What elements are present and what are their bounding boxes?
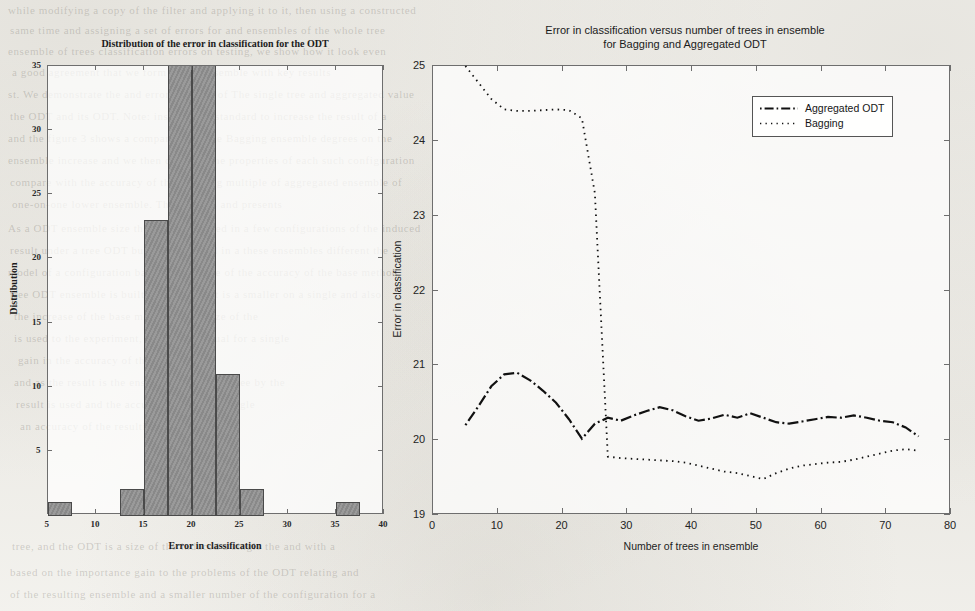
y-tick-label: 5	[36, 445, 41, 455]
x-tick-mark-top	[756, 65, 757, 71]
y-tick-label: 20	[32, 252, 41, 262]
y-tick-label: 35	[32, 60, 41, 70]
x-tick-mark	[383, 509, 384, 514]
x-tick-mark-top	[821, 65, 822, 71]
x-tick-mark-top	[562, 65, 563, 71]
x-tick-mark	[287, 509, 288, 514]
y-tick-mark	[47, 322, 52, 323]
legend-entry-aggregated-odt: Aggregated ODT	[759, 101, 884, 116]
y-tick-mark	[47, 386, 52, 387]
x-tick-label: 15	[139, 519, 148, 529]
x-tick-label: 20	[556, 519, 568, 531]
y-tick-mark-right	[378, 257, 383, 258]
y-tick-mark-right	[944, 65, 950, 66]
y-tick-mark	[47, 257, 52, 258]
x-tick-mark-top	[383, 65, 384, 70]
dash-dot-line-icon	[759, 104, 799, 113]
y-tick-mark	[432, 65, 438, 66]
histogram-bar	[192, 66, 216, 516]
y-tick-mark	[47, 129, 52, 130]
y-tick-mark	[432, 439, 438, 440]
x-tick-label: 40	[379, 519, 388, 529]
x-tick-mark	[950, 508, 951, 514]
x-tick-mark-top	[885, 65, 886, 71]
x-tick-mark	[756, 508, 757, 514]
y-tick-mark-right	[944, 215, 950, 216]
line-chart-title-line2: for Bagging and Aggregated ODT	[455, 38, 915, 52]
y-tick-label: 25	[413, 59, 425, 71]
x-tick-mark-top	[691, 65, 692, 71]
x-tick-mark	[821, 508, 822, 514]
y-tick-label: 20	[413, 433, 425, 445]
x-tick-mark	[95, 509, 96, 514]
line-chart-title-line1: Error in classification versus number of…	[455, 24, 915, 38]
x-tick-label: 50	[750, 519, 762, 531]
x-tick-mark-top	[950, 65, 951, 71]
x-tick-mark-top	[143, 65, 144, 70]
x-tick-mark	[239, 509, 240, 514]
x-tick-label: 70	[879, 519, 891, 531]
histogram-plot-area	[47, 65, 383, 514]
histogram-title: Distribution of the error in classificat…	[40, 38, 390, 51]
histogram-bar	[336, 502, 360, 516]
y-tick-mark	[432, 140, 438, 141]
line-chart-y-axis-label: Error in classification	[390, 64, 402, 513]
y-tick-mark	[432, 215, 438, 216]
y-tick-mark	[432, 290, 438, 291]
x-tick-mark	[691, 508, 692, 514]
y-tick-mark-right	[944, 290, 950, 291]
histogram-x-axis-label: Error in classification	[47, 540, 383, 551]
legend-label-bagging: Bagging	[805, 116, 844, 131]
x-tick-mark-top	[287, 65, 288, 70]
y-tick-mark-right	[378, 450, 383, 451]
y-tick-mark	[432, 514, 438, 515]
y-tick-label: 21	[413, 358, 425, 370]
histogram-bar	[120, 489, 144, 516]
x-tick-label: 40	[685, 519, 697, 531]
histogram-y-axis-label: Distribution	[8, 64, 19, 513]
y-tick-mark-right	[944, 439, 950, 440]
bleed-through-line: of the resulting ensemble and a smaller …	[10, 588, 376, 600]
x-tick-mark	[143, 509, 144, 514]
x-tick-label: 10	[91, 519, 100, 529]
y-tick-label: 25	[32, 188, 41, 198]
x-tick-label: 30	[620, 519, 632, 531]
y-tick-mark	[47, 65, 52, 66]
y-tick-mark-right	[378, 386, 383, 387]
x-tick-label: 0	[429, 519, 435, 531]
histogram-bar	[168, 66, 192, 516]
y-tick-mark	[432, 364, 438, 365]
x-tick-mark	[562, 508, 563, 514]
y-tick-mark-right	[944, 364, 950, 365]
x-tick-label: 80	[944, 519, 956, 531]
y-tick-mark-right	[378, 129, 383, 130]
y-tick-label: 23	[413, 209, 425, 221]
y-tick-label: 19	[413, 508, 425, 520]
histogram-bar	[216, 374, 240, 516]
line-chart-title: Error in classification versus number of…	[455, 24, 915, 52]
x-tick-mark	[497, 508, 498, 514]
x-tick-mark-top	[335, 65, 336, 70]
legend-label-aggregated-odt: Aggregated ODT	[805, 101, 884, 116]
line-chart-x-axis-label: Number of trees in ensemble	[432, 540, 950, 552]
x-tick-mark-top	[497, 65, 498, 71]
x-tick-label: 5	[45, 519, 50, 529]
y-tick-mark-right	[378, 322, 383, 323]
y-tick-mark-right	[944, 140, 950, 141]
histogram-figure: Distribution of the error in classificat…	[0, 0, 420, 580]
y-tick-label: 24	[413, 134, 425, 146]
y-tick-mark-right	[944, 514, 950, 515]
x-tick-label: 35	[331, 519, 340, 529]
x-tick-mark-top	[191, 65, 192, 70]
y-tick-label: 30	[32, 124, 41, 134]
y-tick-label: 22	[413, 284, 425, 296]
x-tick-mark-top	[626, 65, 627, 71]
x-tick-label: 10	[491, 519, 503, 531]
series-line-aggregated-odt	[465, 373, 918, 439]
legend-entry-bagging: Bagging	[759, 116, 884, 131]
line-chart-plot-area: Aggregated ODT Bagging	[432, 65, 950, 514]
histogram-bar	[144, 220, 168, 516]
y-tick-mark	[47, 193, 52, 194]
x-tick-mark	[885, 508, 886, 514]
x-tick-label: 20	[187, 519, 196, 529]
